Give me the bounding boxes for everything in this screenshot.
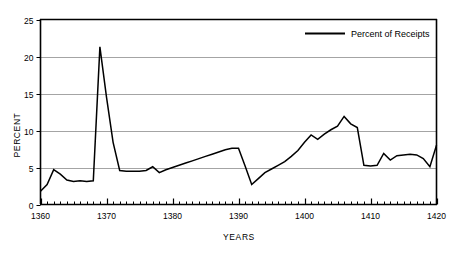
- y-tick-label-10: 10: [24, 127, 34, 137]
- y-tick-label-15: 15: [24, 90, 34, 100]
- legend-entry-label: Percent of Receipts: [351, 29, 430, 39]
- x-tick-label-1370: 1370: [97, 211, 116, 221]
- x-tick-label-1360: 1360: [31, 211, 50, 221]
- chart-container: 0510152025 1360137013801390140014101420 …: [0, 0, 462, 254]
- x-tick-label-1410: 1410: [361, 211, 380, 221]
- plot-area-background: [40, 19, 437, 204]
- x-tick-label-1400: 1400: [295, 211, 314, 221]
- y-tick-label-5: 5: [29, 164, 34, 174]
- line-chart: 0510152025 1360137013801390140014101420 …: [0, 0, 462, 254]
- y-tick-label-0: 0: [29, 201, 34, 211]
- y-tick-label-20: 20: [24, 53, 34, 63]
- y-axis-ticks: 0510152025: [24, 16, 40, 211]
- x-tick-label-1420: 1420: [427, 211, 446, 221]
- y-tick-label-25: 25: [24, 16, 34, 26]
- x-tick-label-1390: 1390: [229, 211, 248, 221]
- x-tick-label-1380: 1380: [163, 211, 182, 221]
- y-axis-title: PERCENT: [12, 113, 22, 158]
- x-axis-title: YEARS: [223, 232, 255, 242]
